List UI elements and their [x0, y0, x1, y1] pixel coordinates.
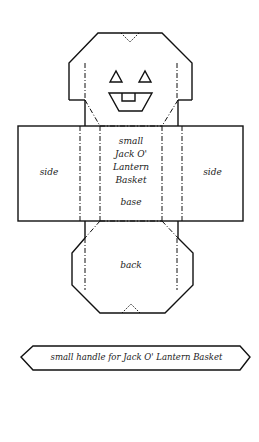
base-title-line-3: Lantern: [100, 162, 162, 173]
bottom-notch: [122, 304, 140, 313]
handle-label: small handle for Jack O' Lantern Basket: [33, 352, 240, 363]
mouth-icon: [109, 93, 152, 111]
right-eye-icon: [139, 71, 151, 82]
back-label: back: [100, 260, 162, 271]
back-panel-outline: [72, 238, 193, 313]
front-panel-outline: [69, 33, 192, 100]
base-title-line-2: Jack O': [100, 149, 162, 160]
left-side-label: side: [18, 167, 80, 178]
base-label: base: [100, 197, 162, 208]
top-notch: [121, 33, 139, 42]
base-title-line-4: Basket: [100, 175, 162, 186]
base-title: small Jack O' Lantern Basket: [100, 136, 162, 186]
left-eye-icon: [110, 71, 122, 82]
base-title-line-1: small: [100, 136, 162, 147]
right-side-label: side: [182, 167, 243, 178]
basket-template-diagram: [0, 0, 259, 442]
